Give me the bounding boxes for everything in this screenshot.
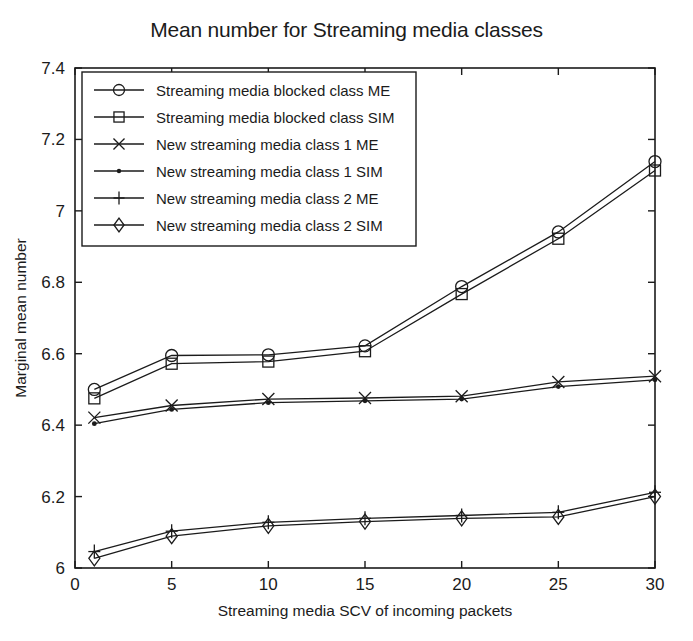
y-tick-label: 7.4 [41, 59, 65, 78]
series-3 [92, 377, 657, 426]
series-2 [88, 370, 661, 423]
x-tick-label: 25 [549, 575, 568, 594]
series-line [94, 492, 655, 551]
marker-dot [92, 421, 97, 426]
x-tick-label: 10 [259, 575, 278, 594]
x-tick-label: 20 [452, 575, 471, 594]
marker-dot [653, 377, 658, 382]
x-tick-label: 0 [70, 575, 79, 594]
series-4 [88, 485, 661, 558]
legend: Streaming media blocked class MEStreamin… [82, 72, 416, 246]
series-5 [89, 489, 661, 566]
y-tick-label: 6.8 [41, 273, 65, 292]
y-tick-label: 6.6 [41, 345, 65, 364]
y-tick-label: 7.2 [41, 130, 65, 149]
x-axis-title: Streaming media SCV of incoming packets [218, 602, 513, 619]
marker-dot [169, 407, 174, 412]
legend-label: New streaming media class 2 SIM [156, 217, 383, 234]
line-chart: 05101520253066.26.46.66.877.27.4Streamin… [0, 0, 693, 641]
chart-figure: Mean number for Streaming media classes … [0, 0, 693, 641]
marker-dot [556, 384, 561, 389]
legend-label: Streaming media blocked class ME [156, 82, 390, 99]
y-tick-label: 6 [56, 559, 65, 578]
legend-label: New streaming media class 1 SIM [156, 163, 383, 180]
marker-dot [363, 398, 368, 403]
series-line [94, 380, 655, 424]
y-tick-label: 6.2 [41, 488, 65, 507]
series-line [94, 497, 655, 559]
legend-label: New streaming media class 1 ME [156, 136, 379, 153]
y-tick-label: 7 [56, 202, 65, 221]
x-tick-label: 30 [646, 575, 665, 594]
y-axis-title: Marginal mean number [12, 238, 29, 397]
marker-dot [459, 397, 464, 402]
marker-dot [117, 169, 121, 173]
legend-label: Streaming media blocked class SIM [156, 109, 394, 126]
legend-label: New streaming media class 2 ME [156, 190, 379, 207]
series-line [94, 376, 655, 417]
y-tick-label: 6.4 [41, 416, 65, 435]
x-tick-label: 15 [356, 575, 375, 594]
x-tick-label: 5 [167, 575, 176, 594]
marker-dot [266, 400, 271, 405]
